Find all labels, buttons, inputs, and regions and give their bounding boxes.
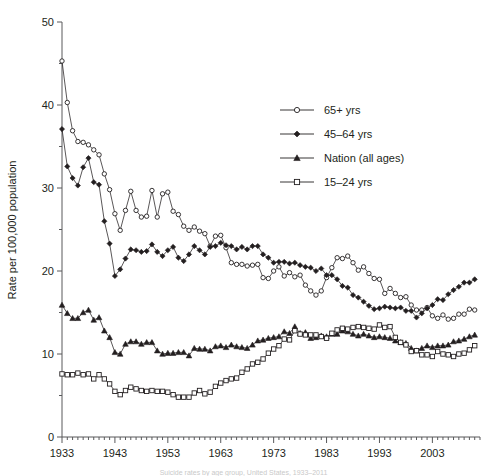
data-point-marker [419,345,425,350]
data-point-marker [388,324,392,328]
data-point-marker [404,343,408,347]
data-point-marker [398,340,402,344]
data-point-marker [445,342,451,347]
data-point-marker [351,261,355,265]
data-point-marker [81,165,86,170]
data-point-marker [382,304,387,309]
data-point-marker [250,263,254,267]
data-point-marker [377,323,381,327]
data-point-marker [260,252,265,257]
data-point-marker [414,308,418,312]
data-point-marker [139,215,143,219]
data-point-marker [213,234,217,238]
x-tick-label: 1973 [261,447,285,459]
data-point-marker [224,378,228,382]
data-point-marker [308,265,313,270]
data-point-marker [303,264,308,269]
data-point-marker [218,240,223,245]
y-tick-label: 40 [42,99,54,111]
data-point-marker [377,306,382,311]
data-point-marker [313,268,318,273]
data-point-marker [377,277,381,281]
data-point-marker [76,139,80,143]
data-point-marker [308,333,312,337]
data-point-marker [234,247,239,252]
data-point-marker [134,208,138,212]
data-point-marker [97,153,101,157]
data-point-marker [112,350,118,355]
data-point-marker [393,335,397,339]
data-point-marker [160,389,164,393]
data-point-marker [294,131,300,137]
data-point-marker [281,329,287,334]
data-point-marker [404,295,408,299]
data-point-marker [467,307,471,311]
data-point-marker [219,233,223,237]
figure-caption: Suicide rates by age group, United State… [0,468,487,476]
data-point-marker [303,283,307,287]
data-point-marker [123,388,127,392]
data-point-marker [245,247,250,252]
data-point-marker [213,384,217,388]
data-point-marker [383,291,387,295]
data-point-marker [107,241,112,246]
data-point-marker [245,367,249,371]
data-point-marker [191,345,197,350]
data-point-marker [294,107,299,112]
data-point-marker [451,354,455,358]
data-point-marker [409,303,413,307]
data-point-marker [293,275,297,279]
data-point-marker [166,390,170,394]
data-point-marker [398,305,403,310]
data-point-marker [277,265,281,269]
data-point-marker [255,244,260,249]
data-point-marker [250,342,256,347]
data-point-marker [102,172,106,176]
data-point-marker [107,382,111,386]
data-point-marker [213,244,218,249]
data-point-marker [430,354,434,358]
data-point-marker [287,261,292,266]
data-point-marker [155,389,159,393]
data-point-marker [65,164,70,169]
data-point-marker [76,371,80,375]
series-line [62,129,475,317]
y-tick-label: 50 [42,16,54,28]
data-point-marker [240,262,244,266]
data-point-marker [345,285,350,290]
data-point-marker [134,387,138,391]
chart-figure: Rate per 100,000 population 01020304050 … [0,0,487,476]
data-point-marker [197,388,201,392]
data-point-marker [282,274,286,278]
data-point-marker [91,180,96,185]
data-point-marker [91,317,97,322]
y-tick-label: 0 [48,431,54,443]
data-point-marker [424,343,430,348]
data-point-marker [171,244,176,249]
data-point-marker [282,337,286,341]
data-point-marker [350,331,356,336]
data-point-marker [192,391,196,395]
data-point-marker [229,342,235,347]
data-point-marker [387,305,392,310]
data-point-marker [102,328,108,333]
data-point-marker [70,373,74,377]
data-point-marker [461,336,467,341]
data-point-marker [240,370,244,374]
data-point-marker [144,214,148,218]
legend-item-65-yrs: 65+ yrs [280,104,361,116]
data-point-marker [277,344,281,348]
data-point-marker [462,312,466,316]
data-point-marker [86,143,90,147]
data-point-marker [107,187,111,191]
data-point-marker [261,357,265,361]
data-point-marker [282,259,287,264]
legend-item-45-64-yrs: 45–64 yrs [280,128,373,140]
data-point-marker [59,126,64,131]
series-65-yrs [60,59,477,322]
data-point-marker [102,219,107,224]
data-point-marker [181,224,185,228]
data-point-marker [150,388,154,392]
data-point-marker [176,255,181,260]
data-point-marker [166,190,170,194]
